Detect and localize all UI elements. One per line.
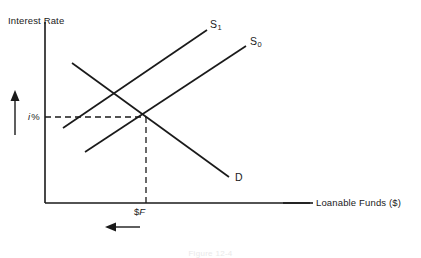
supply-s0-letter: S — [250, 35, 257, 47]
supply-s0-subscript: 0 — [258, 40, 262, 49]
figure-caption: Figure 12-4 — [0, 249, 421, 258]
x-axis-title: Loanable Funds ($) — [316, 198, 401, 208]
demand-curve-label: D — [235, 172, 243, 183]
supply-curve-s1-label: S1 — [210, 19, 221, 30]
equilibrium-quantity-symbol: F — [139, 206, 145, 217]
demand-curve — [72, 63, 229, 177]
supply-curve-s0-label: S0 — [250, 36, 261, 47]
loanable-funds-left-arrow-icon — [105, 223, 140, 232]
supply-s1-subscript: 1 — [218, 23, 222, 32]
supply-curve-s1 — [63, 30, 207, 128]
equilibrium-quantity-label: $F — [134, 207, 145, 217]
interest-rate-up-arrow-icon — [11, 90, 20, 135]
equilibrium-rate-symbol: i — [28, 111, 30, 122]
y-axis-title: Interest Rate — [8, 16, 64, 26]
supply-s1-letter: S — [210, 18, 217, 30]
equilibrium-rate-label: i% — [28, 112, 40, 122]
equilibrium-rate-unit: % — [31, 111, 39, 122]
supply-curve-s0 — [85, 46, 246, 152]
